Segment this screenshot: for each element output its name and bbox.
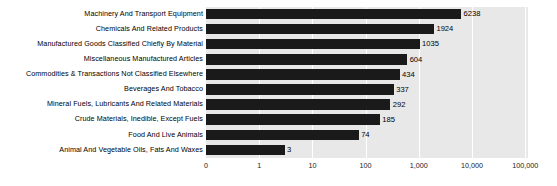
bar-value-label: 1035 <box>422 38 439 50</box>
x-axis-tick-label: 100 <box>360 160 372 172</box>
category-label: Chemicals And Related Products <box>0 24 203 35</box>
bar <box>206 39 420 50</box>
category-label: Animal And Vegetable Oils, Fats And Waxe… <box>0 145 203 156</box>
bar-value-label: 6238 <box>464 8 481 20</box>
bar-row: 604 <box>206 54 528 65</box>
x-axis-tick-label: 0 <box>204 160 208 172</box>
bar-value-label: 292 <box>393 99 406 111</box>
x-axis-tick-label: 10 <box>308 160 316 172</box>
category-label: Crude Materials, Inedible, Except Fuels <box>0 114 203 125</box>
bar-value-label: 185 <box>382 114 395 126</box>
bar <box>206 24 434 35</box>
bar <box>206 114 380 125</box>
category-axis-labels: Machinery And Transport EquipmentChemica… <box>0 7 203 158</box>
x-axis-tick-label: 1 <box>257 160 261 172</box>
bar-row: 434 <box>206 69 528 80</box>
bar-value-label: 3 <box>287 144 291 156</box>
bar-chart: Machinery And Transport EquipmentChemica… <box>0 0 557 186</box>
bar <box>206 84 394 95</box>
bar-row: 337 <box>206 84 528 95</box>
plot-area: 623819241035604434337292185743 <box>206 7 528 158</box>
x-axis-tick-label: 100,000 <box>512 160 538 172</box>
category-label: Beverages And Tobacco <box>0 84 203 95</box>
bar <box>206 99 390 110</box>
bar <box>206 9 461 20</box>
category-label: Food And Live Animals <box>0 130 203 141</box>
x-axis-tick-labels: 01101001,00010,000100,000 <box>206 160 528 174</box>
bar-row: 74 <box>206 130 528 141</box>
x-axis-tick-label: 1,000 <box>410 160 428 172</box>
bar-row: 1924 <box>206 24 528 35</box>
bar-row: 185 <box>206 114 528 125</box>
x-axis-tick-label: 10,000 <box>461 160 483 172</box>
category-label: Miscellaneous Manufactured Articles <box>0 54 203 65</box>
bar-row: 1035 <box>206 39 528 50</box>
bar <box>206 69 400 80</box>
bar-row: 3 <box>206 145 528 156</box>
bar-value-label: 604 <box>410 54 423 66</box>
bar-row: 292 <box>206 99 528 110</box>
bar-value-label: 74 <box>361 129 369 141</box>
bar <box>206 54 407 65</box>
category-label: Commodities & Transactions Not Classifie… <box>0 69 203 80</box>
bar <box>206 130 359 141</box>
bar-value-label: 337 <box>396 84 409 96</box>
bar-value-label: 1924 <box>436 23 453 35</box>
bar-row: 6238 <box>206 9 528 20</box>
bar <box>206 145 285 156</box>
category-label: Mineral Fuels, Lubricants And Related Ma… <box>0 99 203 110</box>
bar-value-label: 434 <box>402 69 415 81</box>
category-label: Machinery And Transport Equipment <box>0 9 203 20</box>
category-label: Manufactured Goods Classified Chiefly By… <box>0 39 203 50</box>
